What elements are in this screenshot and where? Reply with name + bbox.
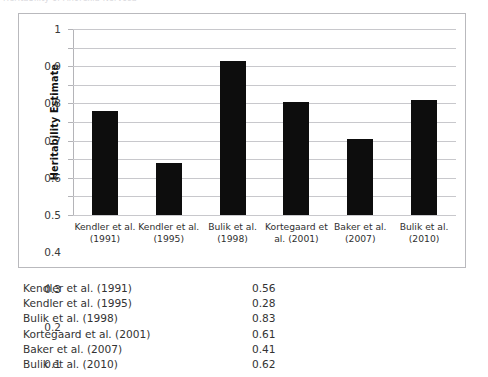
plot-area: 10.90.80.70.60.50.40.30.20.10 Kendler et…: [73, 29, 456, 215]
bar[interactable]: [411, 100, 437, 215]
table-row: Bulik et al. (1998)0.83: [23, 311, 323, 326]
x-axis-tick-label-line: (1991): [73, 233, 137, 245]
table-row-value: 0.41: [252, 342, 276, 357]
table-row-label: Kendler et al. (1995): [23, 296, 132, 311]
gridline: [73, 196, 456, 197]
y-axis-tick: 0.1: [68, 196, 73, 197]
y-axis-tick-label: 0.8: [44, 97, 61, 109]
bar[interactable]: [347, 139, 373, 215]
y-axis-tick-label: 0.5: [44, 209, 61, 221]
table-row-value: 0.61: [252, 327, 276, 342]
data-table: Kendler et al. (1991)0.56Kendler et al. …: [23, 281, 323, 372]
x-axis-tick-label-line: Kendler et al.: [137, 221, 201, 233]
x-axis-tick-label-line: Kendler et al.: [73, 221, 137, 233]
y-axis-tick: 0.4: [68, 141, 73, 142]
gridline: [73, 48, 456, 49]
y-axis-tick: 0.9: [68, 48, 73, 49]
y-axis-tick: 0.6: [68, 103, 73, 104]
table-row-value: 0.56: [252, 281, 276, 296]
bar[interactable]: [220, 61, 246, 215]
table-row: Bulik et al. (2010)0.62: [23, 357, 323, 372]
table-row: Kendler et al. (1991)0.56: [23, 281, 323, 296]
x-axis-tick-label: Bulik et al.(1998): [201, 221, 265, 244]
gridline: [73, 122, 456, 123]
gridline: [73, 85, 456, 86]
table-row-label: Bulik et al. (2010): [23, 357, 118, 372]
gridline: [73, 29, 456, 30]
x-axis-tick-label: Kendler et al.(1995): [137, 221, 201, 244]
x-axis-tick-label-line: (1998): [201, 233, 265, 245]
gridline: [73, 215, 456, 216]
bar[interactable]: [92, 111, 118, 215]
x-axis-tick-label-line: Kortegaard et: [265, 221, 329, 233]
y-axis-tick: 0.2: [68, 178, 73, 179]
bar[interactable]: [156, 163, 182, 215]
table-row: Kortegaard et al. (2001)0.61: [23, 327, 323, 342]
gridline: [73, 159, 456, 160]
x-axis-tick-label-line: al. (2001): [265, 233, 329, 245]
y-axis-tick: 0: [68, 215, 73, 216]
table-row-label: Bulik et al. (1998): [23, 311, 118, 326]
table-row-label: Kortegaard et al. (2001): [23, 327, 150, 342]
table-row: Baker et al. (2007)0.41: [23, 342, 323, 357]
gridline: [73, 178, 456, 179]
y-axis-tick-label: 0.7: [44, 135, 61, 147]
y-axis-tick-label: 0.4: [44, 246, 61, 258]
gridline: [73, 141, 456, 142]
y-axis-tick: 0.5: [68, 122, 73, 123]
y-axis-tick: 1: [68, 29, 73, 30]
x-axis-tick-label: Kendler et al.(1991): [73, 221, 137, 244]
gridline: [73, 66, 456, 67]
gridline: [73, 103, 456, 104]
y-axis-tick: 0.8: [68, 66, 73, 67]
x-axis-tick-label-line: (2010): [392, 233, 456, 245]
x-axis-tick-label: Baker et al.(2007): [328, 221, 392, 244]
table-row-label: Baker et al. (2007): [23, 342, 122, 357]
x-axis-tick-label-line: (1995): [137, 233, 201, 245]
x-axis-tick-label-line: (2007): [328, 233, 392, 245]
table-row-value: 0.62: [252, 357, 276, 372]
y-axis-tick: 0.3: [68, 159, 73, 160]
x-axis-tick-label-line: Baker et al.: [328, 221, 392, 233]
chart-container: Heritability Estimate 10.90.80.70.60.50.…: [18, 13, 466, 268]
y-axis-tick-label: 0.6: [44, 172, 61, 184]
y-axis-title: Heritability Estimate: [49, 29, 63, 215]
x-axis-tick-label-line: Bulik et al.: [392, 221, 456, 233]
table-row: Kendler et al. (1995)0.28: [23, 296, 323, 311]
cutoff-header-text: Heritability of Anorexia Nervosa: [3, 0, 193, 4]
table-row-label: Kendler et al. (1991): [23, 281, 132, 296]
y-axis-tick-label: 0.9: [44, 60, 61, 72]
x-axis-tick-label: Kortegaard etal. (2001): [265, 221, 329, 244]
table-row-value: 0.83: [252, 311, 276, 326]
y-axis-tick-label: 1: [54, 23, 61, 35]
bar[interactable]: [283, 102, 309, 215]
x-axis-tick-label-line: Bulik et al.: [201, 221, 265, 233]
x-axis-tick-label: Bulik et al.(2010): [392, 221, 456, 244]
table-row-value: 0.28: [252, 296, 276, 311]
y-axis-tick: 0.7: [68, 85, 73, 86]
